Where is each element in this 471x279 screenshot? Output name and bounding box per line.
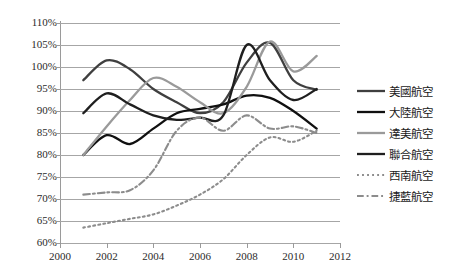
legend-item-0[interactable]: 美國航空 <box>356 80 468 101</box>
x-tick-mark <box>247 243 248 248</box>
legend-line-icon <box>356 85 386 97</box>
x-tick-label: 2000 <box>49 250 71 262</box>
x-tick-label: 2004 <box>142 250 164 262</box>
series-lines <box>60 23 340 243</box>
series-line-5 <box>83 115 316 194</box>
legend-item-label: 聯合航空 <box>386 146 433 162</box>
y-axis-labels: 60%65%70%75%80%85%90%95%100%105%110% <box>0 0 57 279</box>
y-tick-label: 70% <box>37 193 57 204</box>
legend-item-label: 美國航空 <box>386 83 433 99</box>
legend-item-3[interactable]: 聯合航空 <box>356 143 468 164</box>
x-tick-mark <box>153 243 154 248</box>
x-tick-mark <box>293 243 294 248</box>
y-tick-label: 60% <box>37 237 57 248</box>
x-tick-mark <box>340 243 341 248</box>
chart-legend: 美國航空大陸航空達美航空聯合航空西南航空捷藍航空 <box>356 80 468 206</box>
x-tick-label: 2006 <box>189 250 211 262</box>
y-tick-label: 110% <box>32 17 57 28</box>
line-chart: 60%65%70%75%80%85%90%95%100%105%110% 200… <box>0 0 471 279</box>
legend-item-2[interactable]: 達美航空 <box>356 122 468 143</box>
y-tick-label: 100% <box>31 61 57 72</box>
legend-line-icon <box>356 127 386 139</box>
legend-line-icon <box>356 169 386 181</box>
x-tick-label: 2010 <box>282 250 304 262</box>
legend-line-icon <box>356 148 386 160</box>
legend-item-label: 大陸航空 <box>386 104 433 120</box>
y-tick-label: 75% <box>37 171 57 182</box>
legend-item-4[interactable]: 西南航空 <box>356 164 468 185</box>
x-tick-mark <box>60 243 61 248</box>
x-tick-mark <box>107 243 108 248</box>
y-tick-label: 105% <box>31 39 57 50</box>
legend-item-label: 捷藍航空 <box>386 188 433 204</box>
y-tick-label: 65% <box>37 215 57 226</box>
x-tick-label: 2012 <box>329 250 351 262</box>
legend-item-5[interactable]: 捷藍航空 <box>356 185 468 206</box>
plot-area <box>60 23 340 243</box>
y-tick-label: 80% <box>37 149 57 160</box>
series-line-4 <box>83 131 316 228</box>
legend-item-label: 西南航空 <box>386 167 433 183</box>
series-line-1 <box>83 95 316 155</box>
y-tick-label: 95% <box>37 83 57 94</box>
y-tick-label: 85% <box>37 127 57 138</box>
x-tick-label: 2002 <box>96 250 118 262</box>
legend-line-icon <box>356 106 386 118</box>
x-tick-label: 2008 <box>236 250 258 262</box>
x-tick-mark <box>200 243 201 248</box>
y-tick-label: 90% <box>37 105 57 116</box>
legend-item-1[interactable]: 大陸航空 <box>356 101 468 122</box>
legend-item-label: 達美航空 <box>386 125 433 141</box>
legend-line-icon <box>356 190 386 202</box>
